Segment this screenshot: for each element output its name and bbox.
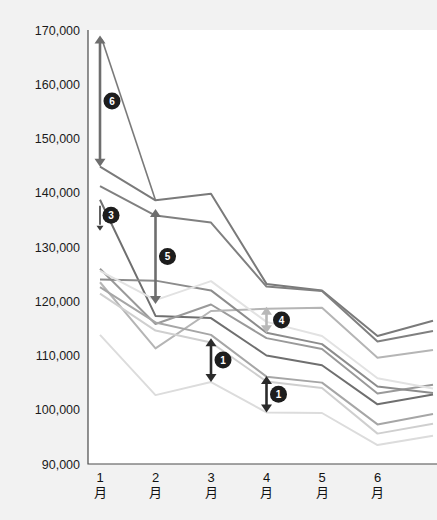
y-tick-label: 170,000 (35, 24, 80, 38)
callout-badge-label: 3 (108, 210, 114, 221)
chart-canvas: 170,000160,000150,000140,000130,000120,0… (0, 0, 437, 520)
x-tick-number: 6 (374, 470, 381, 485)
x-tick-number: 5 (318, 470, 325, 485)
callout-badge-label: 1 (220, 355, 226, 366)
callout-badge-label: 5 (165, 251, 171, 262)
x-tick-number: 1 (96, 470, 103, 485)
x-tick-number: 4 (263, 470, 270, 485)
callout-badge-label: 4 (279, 315, 285, 326)
x-tick-unit: 月 (94, 485, 107, 500)
callout-badge-label: 6 (109, 96, 115, 107)
y-tick-label: 110,000 (36, 349, 80, 363)
x-tick-unit: 月 (149, 485, 162, 500)
line-chart: 170,000160,000150,000140,000130,000120,0… (0, 0, 437, 520)
x-tick-number: 2 (152, 470, 159, 485)
x-tick-unit: 月 (205, 485, 218, 500)
y-tick-label: 100,000 (35, 403, 80, 417)
x-tick-unit: 月 (316, 485, 329, 500)
y-tick-label: 140,000 (35, 186, 80, 200)
callout-badge-label: 1 (276, 389, 282, 400)
y-tick-label: 90,000 (42, 458, 80, 472)
x-tick-unit: 月 (260, 485, 273, 500)
x-tick-number: 3 (207, 470, 214, 485)
x-tick-unit: 月 (371, 485, 384, 500)
y-tick-label: 150,000 (35, 132, 80, 146)
y-tick-label: 130,000 (35, 241, 80, 255)
y-tick-label: 120,000 (35, 295, 80, 309)
y-tick-label: 160,000 (35, 78, 80, 92)
plot-area-background (88, 30, 437, 464)
y-axis-tick-labels: 170,000160,000150,000140,000130,000120,0… (35, 24, 80, 472)
